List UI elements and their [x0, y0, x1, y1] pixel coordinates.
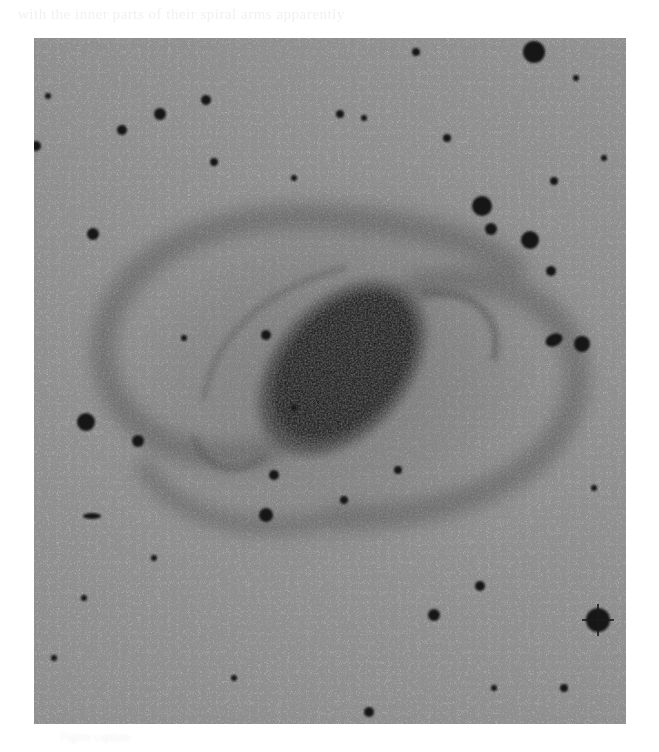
- caption-text-bleedthrough: Figure caption: [60, 730, 600, 746]
- galaxy-photograph: [34, 38, 626, 724]
- header-text-bleedthrough: with the inner parts of their spiral arm…: [18, 6, 648, 24]
- galaxy-image: [34, 38, 626, 724]
